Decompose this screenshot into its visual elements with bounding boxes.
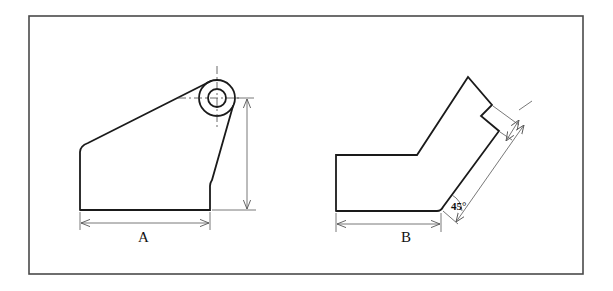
figure-b-label: B — [401, 229, 411, 245]
extension-line — [493, 106, 519, 125]
extension-line — [443, 211, 458, 224]
dimension-notch — [506, 120, 519, 141]
angle-label: 45° — [451, 200, 466, 212]
figure-a-label: A — [138, 229, 149, 245]
figure-b: 45° B — [336, 77, 532, 245]
drawing-frame — [29, 16, 583, 274]
figure-a: A — [80, 66, 256, 245]
figure-a-outline — [80, 81, 233, 210]
technical-drawing: A 45° B — [0, 0, 613, 291]
extension-line — [500, 132, 512, 140]
extension-line — [519, 101, 532, 110]
figure-b-outline — [336, 77, 499, 211]
